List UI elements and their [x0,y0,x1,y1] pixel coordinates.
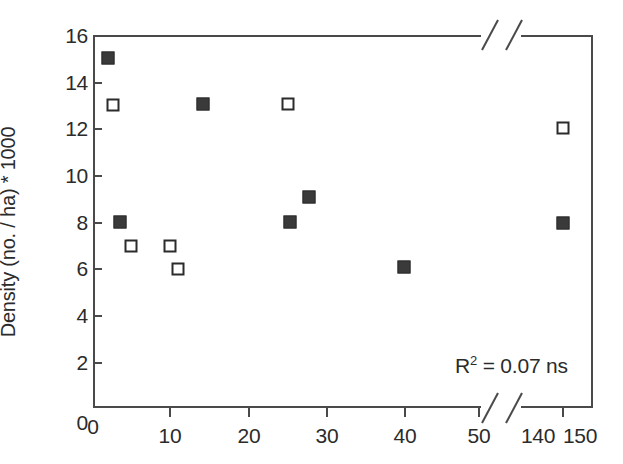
x-tick-label-40: 40 [394,424,417,448]
x-tick-40 [404,408,406,417]
data-point-filled [102,52,115,65]
y-axis-title: Density (no. / ha) * 1000 [0,127,20,338]
data-point-open [107,99,120,112]
r-squared-exponent: 2 [470,353,477,368]
r-squared-value: = 0.07 ns [477,354,568,377]
y-tick-label-4: 4 [52,304,88,328]
data-point-filled [303,191,316,204]
x-tick-50 [478,408,480,417]
y-tick-label-2: 2 [52,351,88,375]
y-tick-label-6: 6 [52,257,88,281]
y-tick-14 [93,82,102,84]
y-tick-6 [93,268,102,270]
scatter-plot-figure: 16 14 12 10 8 6 4 2 0 0 10 20 30 40 50 1… [0,0,623,464]
x-tick-label-140: 140 [521,424,555,448]
y-tick-label-16: 16 [52,24,88,48]
data-point-filled [557,217,570,230]
data-point-open [125,240,138,253]
x-tick-20 [248,408,250,417]
data-point-filled [197,98,210,111]
x-tick-30 [326,408,328,417]
data-point-filled [284,216,297,229]
y-tick-8 [93,222,102,224]
data-point-filled [114,216,127,229]
y-tick-label-12: 12 [52,117,88,141]
data-point-open [172,263,185,276]
data-point-open [557,122,570,135]
y-tick-label-8: 8 [52,211,88,235]
x-tick-10 [169,408,171,417]
data-point-open [164,240,177,253]
x-tick-label-150: 150 [563,424,597,448]
y-tick-label-0: 0 [52,411,88,435]
x-tick-label-20: 20 [238,424,261,448]
y-tick-4 [93,315,102,317]
y-tick-10 [93,175,102,177]
x-tick-label-30: 30 [316,424,339,448]
r-squared-annotation: R2 = 0.07 ns [455,353,568,378]
data-point-filled [398,261,411,274]
x-tick-label-0: 0 [87,415,98,439]
y-tick-label-10: 10 [52,164,88,188]
y-tick-2 [93,362,102,364]
x-tick-150 [562,408,564,417]
y-tick-16 [93,35,102,37]
r-squared-prefix: R [455,354,470,377]
x-tick-label-50: 50 [468,424,491,448]
x-tick-label-10: 10 [159,424,182,448]
data-point-open [282,98,295,111]
y-tick-label-14: 14 [52,71,88,95]
y-tick-12 [93,128,102,130]
